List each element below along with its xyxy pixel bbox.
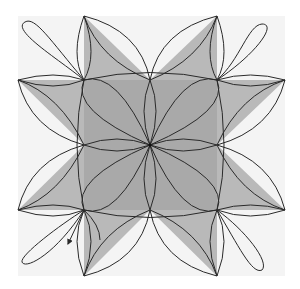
diagram-figure: [0, 0, 300, 289]
center-point: [149, 144, 152, 147]
